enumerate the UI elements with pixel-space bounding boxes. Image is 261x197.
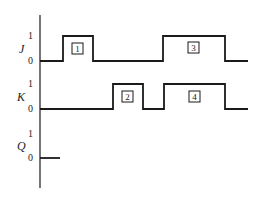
pulse-label-1: 1: [75, 44, 80, 54]
pulse-label-3: 3: [191, 43, 196, 53]
signal-k-waveform: [40, 84, 248, 109]
signal-j-high-label: 1: [28, 30, 33, 41]
signal-k: K 1 0 2 4: [16, 78, 248, 114]
signal-j-waveform: [40, 36, 248, 61]
pulse-label-2: 2: [125, 92, 130, 102]
signal-q-name: Q: [17, 139, 26, 153]
pulse-label-4: 4: [192, 92, 197, 102]
signal-k-low-label: 0: [28, 103, 33, 114]
signal-j-name: J: [19, 42, 25, 56]
signal-q-high-label: 1: [28, 128, 33, 139]
signal-j-low-label: 0: [28, 55, 33, 66]
signal-j: J 1 0 1 3: [19, 30, 248, 66]
signal-q-low-label: 0: [28, 152, 33, 163]
signal-q: Q 1 0: [17, 128, 60, 163]
signal-k-name: K: [16, 90, 26, 104]
timing-diagram: J 1 0 1 3 K 1 0 2 4 Q 1 0: [0, 0, 261, 197]
signal-k-high-label: 1: [28, 78, 33, 89]
